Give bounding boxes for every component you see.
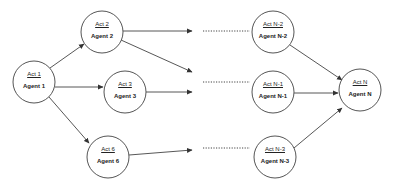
node-actn3: Act N-3 Agent N-3 bbox=[254, 136, 296, 178]
act-label: Act 3 bbox=[104, 81, 146, 87]
agent-label: Agent N-3 bbox=[254, 158, 296, 164]
edge-act1-act6 bbox=[49, 97, 89, 143]
agent-label: Agent N bbox=[339, 91, 381, 97]
edge-actn3-actn bbox=[294, 108, 342, 148]
agent-label: Agent 3 bbox=[104, 93, 146, 99]
edge-act2-out2 bbox=[121, 40, 192, 72]
flow-diagram bbox=[0, 0, 397, 185]
act-label: Act 1 bbox=[13, 71, 55, 77]
edge-actn2-actn bbox=[290, 45, 342, 80]
agent-label: Agent N-2 bbox=[252, 33, 294, 39]
agent-label: Agent 6 bbox=[87, 158, 129, 164]
node-act3: Act 3 Agent 3 bbox=[104, 71, 146, 113]
node-actn2: Act N-2 Agent N-2 bbox=[252, 11, 294, 53]
agent-label: Agent 1 bbox=[13, 83, 55, 89]
node-act1: Act 1 Agent 1 bbox=[13, 61, 55, 103]
act-label: Act 2 bbox=[81, 21, 123, 27]
act-label: Act N bbox=[339, 79, 381, 85]
act-label: Act 6 bbox=[87, 146, 129, 152]
node-actn1: Act N-1 Agent N-1 bbox=[252, 71, 294, 113]
agent-label: Agent 2 bbox=[81, 33, 123, 39]
agent-label: Agent N-1 bbox=[252, 93, 294, 99]
node-act6: Act 6 Agent 6 bbox=[87, 136, 129, 178]
act-label: Act N-1 bbox=[252, 81, 294, 87]
node-act2: Act 2 Agent 2 bbox=[81, 11, 123, 53]
edge-act6-out bbox=[129, 150, 192, 155]
edge-act1-act2 bbox=[50, 44, 84, 68]
act-label: Act N-3 bbox=[254, 146, 296, 152]
node-actn: Act N Agent N bbox=[339, 69, 381, 111]
act-label: Act N-2 bbox=[252, 21, 294, 27]
